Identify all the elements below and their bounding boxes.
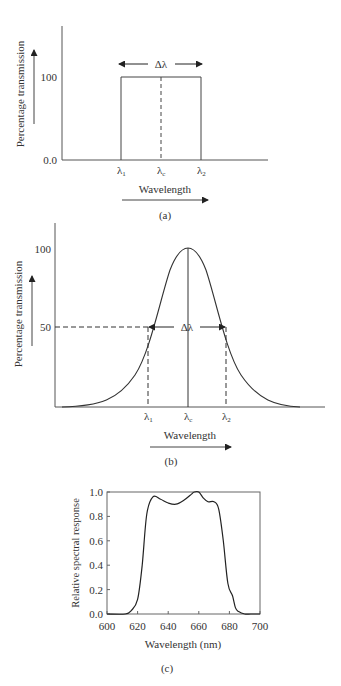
y-tick-label: 0.0	[89, 608, 103, 620]
panel-b: Δλ 100 50 Percentage transmission λ1 λc …	[12, 223, 325, 468]
y-tick-label: 1.0	[89, 486, 103, 498]
x-tick-label: 700	[252, 620, 269, 632]
caption-b: (b)	[165, 455, 178, 468]
x-tick-label: 680	[221, 620, 238, 632]
delta-lambda-label: Δλ	[155, 58, 168, 70]
x-tick-label: 620	[129, 620, 146, 632]
y-axis-label: Percentage transmission	[12, 260, 24, 367]
x-tick-lambda2: λ2	[222, 410, 231, 424]
x-tick-lambda1: λ1	[117, 164, 126, 178]
y-tick-50: 50	[40, 321, 52, 333]
y-axis-label: Relative spectral response	[70, 498, 81, 608]
caption-c: (c)	[161, 662, 174, 675]
y-axis-label: Percentage transmission	[14, 40, 26, 147]
y-tick-label: 0.8	[89, 510, 103, 522]
x-axis-label: Wavelength (nm)	[145, 638, 222, 651]
delta-lambda-label: Δλ	[181, 321, 194, 333]
x-tick-lambda2: λ2	[197, 164, 206, 178]
y-tick-0: 0.0	[43, 154, 57, 166]
spectral-response-curve	[107, 491, 260, 614]
y-tick-label: 0.2	[89, 584, 103, 596]
panel-a: Δλ 100 0.0 Percentage transmission λ1 λc…	[14, 26, 268, 222]
x-tick-label: 640	[160, 620, 177, 632]
figure: Δλ 100 0.0 Percentage transmission λ1 λc…	[0, 0, 341, 686]
x-tick-label: 600	[99, 620, 116, 632]
x-tick-label: 660	[191, 620, 208, 632]
y-tick-100: 100	[35, 243, 52, 255]
x-axis-label: Wavelength	[139, 183, 192, 195]
panel-c: 0.00.20.40.60.81.0 600620640660680700 Re…	[70, 486, 269, 675]
y-tick-label: 0.4	[89, 559, 103, 571]
x-tick-lambdac: λc	[184, 410, 192, 424]
plot-frame	[107, 492, 260, 614]
y-tick-label: 0.6	[89, 535, 103, 547]
y-tick-100: 100	[41, 71, 58, 83]
x-axis-label: Wavelength	[164, 429, 217, 441]
x-tick-lambda1: λ1	[144, 410, 153, 424]
x-tick-lambdac: λc	[157, 164, 165, 178]
caption-a: (a)	[159, 209, 172, 222]
